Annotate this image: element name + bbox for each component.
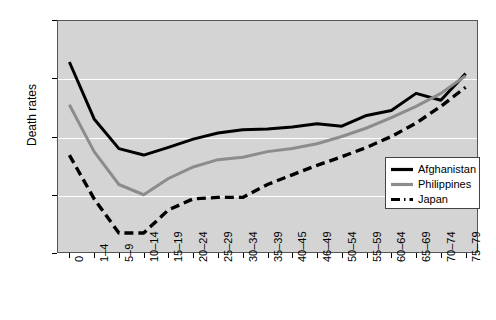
x-axis-tick-label: 20–24 <box>197 231 209 262</box>
legend-label: Japan <box>418 194 448 205</box>
x-axis-tick-mark <box>193 253 194 258</box>
y-axis-tick-mark <box>52 195 57 196</box>
y-axis-tick-mark <box>52 78 57 79</box>
x-axis-tick-label: 55–59 <box>371 231 383 262</box>
x-axis-tick-mark <box>94 253 95 258</box>
x-axis-tick-label: 70–74 <box>445 231 457 262</box>
y-axis-title: Death rates <box>25 45 39 185</box>
x-axis-tick-label: 75–79 <box>470 231 482 262</box>
x-axis-tick-label: 1–4 <box>98 244 110 262</box>
x-axis-tick-mark <box>168 253 169 258</box>
x-axis-tick-mark <box>268 253 269 258</box>
y-axis-tick-mark <box>52 253 57 254</box>
x-axis-tick-mark <box>119 253 120 258</box>
x-axis-tick-mark <box>342 253 343 258</box>
legend-swatch-solid-gray <box>391 179 413 190</box>
x-axis-tick-mark <box>391 253 392 258</box>
legend-label: Afghanistan <box>418 164 476 175</box>
x-axis-tick-label: 40–45 <box>296 231 308 262</box>
legend-item-japan: Japan <box>391 192 474 207</box>
chart-figure: Death rates Afghanistan Philippines Japa… <box>0 0 496 320</box>
x-axis-tick-mark <box>367 253 368 258</box>
chart-legend: Afghanistan Philippines Japan <box>385 157 480 209</box>
series-layer <box>57 20 478 253</box>
legend-swatch-dashed-black <box>391 194 413 205</box>
legend-item-philippines: Philippines <box>391 177 474 192</box>
x-axis-tick-label: 5–9 <box>123 244 135 262</box>
x-axis-tick-label: 10–14 <box>148 231 160 262</box>
series-line-afghanistan <box>69 62 465 155</box>
x-axis-tick-label: 60–64 <box>395 231 407 262</box>
x-axis-tick-mark <box>317 253 318 258</box>
y-axis-tick-mark <box>52 20 57 21</box>
x-axis-tick-label: 15–19 <box>172 231 184 262</box>
x-axis-tick-label: 0 <box>73 256 85 262</box>
x-axis-tick-mark <box>218 253 219 258</box>
x-axis-tick-mark <box>69 253 70 258</box>
x-axis-tick-mark <box>416 253 417 258</box>
x-axis-tick-label: 65–69 <box>420 231 432 262</box>
x-axis-tick-mark <box>243 253 244 258</box>
x-axis-tick-label: 46–49 <box>321 231 333 262</box>
legend-label: Philippines <box>418 179 471 190</box>
x-axis-tick-label: 50–54 <box>346 231 358 262</box>
x-axis-tick-mark <box>466 253 467 258</box>
x-axis-tick-label: 35–39 <box>272 231 284 262</box>
x-axis-tick-mark <box>441 253 442 258</box>
y-axis-tick-mark <box>52 137 57 138</box>
x-axis-tick-mark <box>292 253 293 258</box>
x-axis-tick-label: 25–29 <box>222 231 234 262</box>
x-axis-tick-mark <box>144 253 145 258</box>
legend-swatch-solid-black <box>391 164 413 175</box>
legend-item-afghanistan: Afghanistan <box>391 162 474 177</box>
x-axis-tick-label: 30–34 <box>247 231 259 262</box>
